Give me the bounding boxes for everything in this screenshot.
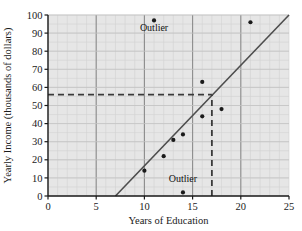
x-tick-label: 0: [45, 201, 50, 212]
data-point: [219, 107, 223, 111]
data-point: [248, 20, 252, 24]
y-tick-label: 40: [32, 118, 43, 129]
y-tick-label: 20: [32, 154, 43, 165]
y-tick-label: 70: [32, 64, 43, 75]
data-point: [181, 190, 185, 194]
chart-canvas: OutlierOutlier01020304050607080901000510…: [0, 0, 302, 231]
y-tick-label: 90: [32, 28, 43, 39]
y-axis-ticks: 0102030405060708090100: [27, 10, 48, 202]
data-point: [181, 132, 185, 136]
y-tick-label: 100: [27, 10, 43, 21]
y-tick-label: 10: [32, 173, 43, 184]
outlier-high: Outlier: [140, 22, 169, 33]
outlier-low: Outlier: [169, 173, 198, 184]
y-tick-label: 50: [32, 100, 43, 111]
data-point: [142, 169, 146, 173]
data-point: [200, 114, 204, 118]
x-tick-label: 10: [139, 201, 150, 212]
x-tick-label: 20: [236, 201, 247, 212]
y-tick-label: 80: [32, 46, 43, 57]
y-tick-label: 0: [37, 191, 42, 202]
data-point: [171, 138, 175, 142]
data-point: [162, 154, 166, 158]
y-tick-label: 60: [32, 82, 43, 93]
y-axis-title: Yearly Income (thousands of dollars): [2, 27, 14, 183]
data-point: [200, 80, 204, 84]
scatter-chart: OutlierOutlier01020304050607080901000510…: [0, 0, 302, 231]
x-tick-label: 5: [94, 201, 99, 212]
x-tick-label: 15: [187, 201, 198, 212]
y-tick-label: 30: [32, 136, 43, 147]
x-axis-title: Years of Education: [128, 215, 209, 226]
x-axis-ticks: 0510152025: [45, 196, 294, 212]
x-tick-label: 25: [284, 201, 295, 212]
